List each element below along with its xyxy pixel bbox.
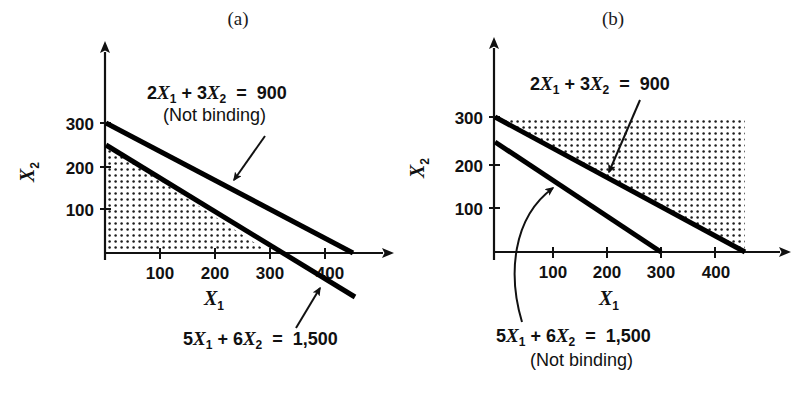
panel-b-eq2-rhs: 1,500 — [606, 326, 651, 346]
panel-b-y-tick-300: 300 — [455, 109, 483, 128]
panel-b-eq2-equals: = — [575, 326, 606, 346]
panel-b-eq1-coef2: 3 — [580, 74, 590, 94]
panel-b-eq1-op: + — [559, 74, 580, 94]
panel-a-eq1-coef2: 3 — [197, 83, 207, 103]
panel-b-x-tick-300: 300 — [647, 263, 675, 282]
panel-b-x-axis-label-main: X — [598, 287, 613, 309]
panel-b-eq2-coef1: 5 — [496, 326, 506, 346]
panel-b-eq2-op: + — [525, 326, 546, 346]
panel-a-eq1-coef1: 2 — [147, 83, 157, 103]
panel-a-y-axis-label-sub: 2 — [28, 162, 42, 169]
panel-a-eq2-rhs: 1,500 — [293, 329, 338, 349]
panel-b-x-axis-label-sub: 1 — [612, 299, 619, 313]
panel-a-eq2-op: + — [212, 329, 233, 349]
panel-b-y-axis-label-main: X — [406, 164, 428, 179]
panel-a-x-tick-200: 200 — [201, 264, 229, 283]
panel-b-y-tick-200: 200 — [455, 157, 483, 176]
panel-b-eq1-rhs: 900 — [640, 74, 670, 94]
panel-a-y-tick-200: 200 — [66, 159, 94, 178]
panel-a-eq2-equals: = — [262, 329, 293, 349]
panel-a-eq2-coef2: 6 — [233, 329, 243, 349]
panel-a-y-tick-300: 300 — [66, 115, 94, 134]
panel-b-label-2x1-3x2: 2X1 + 3X2 = 900 — [530, 73, 670, 97]
panel-b-x-tick-400: 400 — [702, 263, 730, 282]
panel-a-y-axis-label-main: X — [16, 168, 38, 183]
panel-b-eq2-coef2: 6 — [546, 326, 556, 346]
panel-b-title: (b) — [602, 8, 624, 30]
panel-a-note-not-binding: (Not binding) — [163, 105, 266, 125]
panel-b-eq1-coef1: 2 — [530, 74, 540, 94]
panel-b-eq1-equals: = — [609, 74, 640, 94]
panel-b-y-axis-label-sub: 2 — [418, 158, 432, 165]
panel-a-label-2x1-3x2: 2X1 + 3X2 = 900 — [147, 82, 287, 106]
binding-constraints-figure: (a) 100 200 300 400 300 200 100 X2 X1 — [0, 0, 796, 394]
panel-b-y-tick-100: 100 — [455, 200, 483, 219]
panel-a-x-axis-label-main: X — [203, 287, 218, 309]
panel-a-title: (a) — [227, 8, 248, 30]
panel-a-y-tick-100: 100 — [66, 201, 94, 220]
figure-container: (a) 100 200 300 400 300 200 100 X2 X1 — [0, 0, 796, 394]
panel-a-eq1-op: + — [176, 83, 197, 103]
panel-a-eq1-equals: = — [226, 83, 257, 103]
panel-a-x-tick-100: 100 — [146, 264, 174, 283]
panel-b-note-not-binding: (Not binding) — [530, 350, 633, 370]
panel-b-x-tick-100: 100 — [539, 263, 567, 282]
panel-a-x-tick-300: 300 — [256, 264, 284, 283]
panel-a-x-axis-label-sub: 1 — [217, 299, 224, 313]
panel-a-eq2-coef1: 5 — [183, 329, 193, 349]
panel-b-x-tick-200: 200 — [593, 263, 621, 282]
panel-a-eq1-rhs: 900 — [257, 83, 287, 103]
